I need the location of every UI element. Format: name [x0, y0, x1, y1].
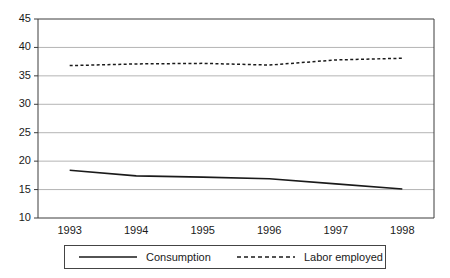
y-axis-tick-label: 35 — [5, 70, 31, 81]
y-axis-tick-label: 45 — [5, 13, 31, 24]
legend-item-consumption: Consumption — [65, 246, 225, 268]
y-axis-tick-label: 15 — [5, 184, 31, 195]
legend-item-labor-employed: Labor employed — [225, 246, 385, 268]
y-axis-tick-label: 10 — [5, 212, 31, 223]
plot-area — [0, 0, 450, 278]
x-axis-tick-label: 1993 — [50, 225, 90, 236]
series-line-labor-employed — [70, 58, 403, 65]
legend-swatch-dashed-line — [237, 252, 295, 262]
y-axis-tick-label: 25 — [5, 127, 31, 138]
data-series-group — [70, 58, 403, 189]
x-axis-tick-label: 1994 — [116, 225, 156, 236]
y-axis-tick-label: 30 — [5, 98, 31, 109]
legend-label-labor-employed: Labor employed — [304, 251, 383, 263]
y-axis-ticks — [34, 19, 38, 218]
chart-legend: Consumption Labor employed — [64, 245, 386, 269]
line-chart-figure: 1015202530354045 19931994199519961997199… — [0, 0, 450, 278]
x-axis-tick-label: 1998 — [382, 225, 422, 236]
x-axis-tick-label: 1995 — [183, 225, 223, 236]
x-axis-tick-label: 1996 — [249, 225, 289, 236]
gridlines — [38, 47, 434, 189]
legend-swatch-solid-line — [79, 252, 137, 262]
plot-frame — [38, 19, 434, 218]
legend-label-consumption: Consumption — [146, 251, 211, 263]
x-axis-tick-label: 1997 — [316, 225, 356, 236]
y-axis-tick-label: 20 — [5, 155, 31, 166]
y-axis-tick-label: 40 — [5, 41, 31, 52]
series-line-consumption — [70, 170, 403, 189]
